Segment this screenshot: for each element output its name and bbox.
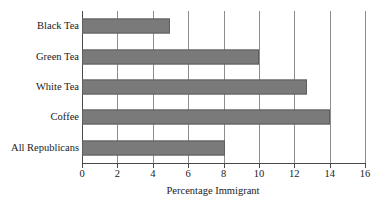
x-tick-label-0: 0 bbox=[67, 169, 97, 180]
bar-all-republicans bbox=[82, 140, 225, 155]
bar-white-tea bbox=[82, 79, 307, 94]
category-label-black-tea: Black Tea bbox=[0, 21, 79, 32]
x-axis-title-text: Percentage Immigrant bbox=[166, 186, 259, 197]
bar-green-tea bbox=[82, 49, 259, 64]
category-label-coffee: Coffee bbox=[0, 112, 79, 123]
bar-coffee bbox=[82, 110, 330, 125]
bar-row bbox=[82, 133, 365, 163]
bar-black-tea bbox=[82, 19, 170, 34]
x-tick-label-10: 10 bbox=[244, 169, 274, 180]
x-tick-label-14: 14 bbox=[315, 169, 345, 180]
x-tick-label-12: 12 bbox=[279, 169, 309, 180]
x-tick-label-16: 16 bbox=[350, 169, 380, 180]
category-label-all-republicans: All Republicans bbox=[0, 143, 79, 154]
x-tick-label-8: 8 bbox=[209, 169, 239, 180]
bar-chart: Black TeaGreen TeaWhite TeaCoffeeAll Rep… bbox=[0, 0, 386, 211]
x-tick-label-6: 6 bbox=[173, 169, 203, 180]
gridline-16 bbox=[365, 11, 366, 163]
category-label-white-tea: White Tea bbox=[0, 82, 79, 93]
bar-row bbox=[82, 41, 365, 71]
bar-row bbox=[82, 102, 365, 132]
bar-row bbox=[82, 11, 365, 41]
x-tick-label-4: 4 bbox=[138, 169, 168, 180]
x-axis-title: Percentage Immigrant bbox=[0, 186, 386, 197]
category-label-green-tea: Green Tea bbox=[0, 52, 79, 63]
x-tick-label-2: 2 bbox=[102, 169, 132, 180]
bar-row bbox=[82, 72, 365, 102]
